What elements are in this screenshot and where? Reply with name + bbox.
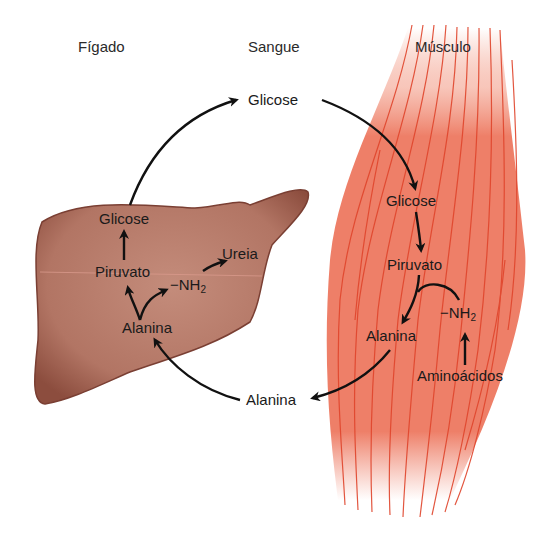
header-liver: Fígado bbox=[78, 39, 125, 54]
header-muscle: Músculo bbox=[415, 39, 471, 54]
muscle-alanine-label: Alanina bbox=[366, 328, 416, 343]
diagram-artwork bbox=[0, 0, 539, 535]
liver-nh2-label: −NH2 bbox=[170, 277, 206, 295]
muscle-nh2-label: −NH2 bbox=[440, 305, 476, 323]
header-blood: Sangue bbox=[248, 39, 300, 54]
muscle-glucose-label: Glicose bbox=[386, 193, 436, 208]
muscle-pyruvate-label: Piruvato bbox=[387, 257, 442, 272]
liver-alanine-label: Alanina bbox=[122, 320, 172, 335]
liver-pyruvate-label: Piruvato bbox=[95, 264, 150, 279]
blood-glucose-label: Glicose bbox=[248, 92, 298, 107]
glucose-alanine-cycle-diagram: Fígado Sangue Músculo Glicose Alanina Gl… bbox=[0, 0, 539, 535]
blood-alanine-label: Alanina bbox=[246, 392, 296, 407]
liver-illustration bbox=[35, 190, 309, 404]
arrow-liver-glucose-to-blood bbox=[130, 100, 236, 205]
muscle-aminoacids-label: Aminoácidos bbox=[417, 368, 503, 383]
liver-urea-label: Ureia bbox=[222, 246, 258, 261]
liver-glucose-label: Glicose bbox=[99, 211, 149, 226]
